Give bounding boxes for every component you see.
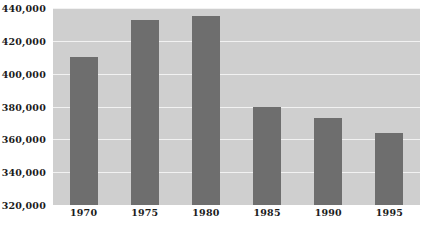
y-axis-tick-label: 360,000 — [2, 134, 46, 145]
x-axis: 197019751980198519901995 — [53, 207, 420, 229]
y-axis-tick-label: 320,000 — [2, 200, 46, 211]
bar — [131, 20, 159, 206]
y-axis-tick-label: 340,000 — [2, 167, 46, 178]
y-axis-tick-label: 420,000 — [2, 35, 46, 46]
x-axis-tick-label: 1975 — [131, 207, 158, 218]
x-axis-tick-label: 1985 — [253, 207, 280, 218]
x-axis-tick-label: 1995 — [376, 207, 403, 218]
x-axis-tick-label: 1970 — [70, 207, 97, 218]
bar — [70, 57, 98, 205]
y-axis: 440,000420,000400,000380,000360,000340,0… — [0, 0, 50, 239]
x-axis-tick-label: 1990 — [315, 207, 342, 218]
x-axis-tick-label: 1980 — [192, 207, 219, 218]
bar-chart: 440,000420,000400,000380,000360,000340,0… — [0, 0, 427, 239]
plot-area — [53, 8, 420, 205]
y-axis-tick-label: 380,000 — [2, 101, 46, 112]
bar — [375, 133, 403, 205]
bar — [192, 16, 220, 205]
bar-series — [53, 8, 420, 205]
bar — [314, 118, 342, 205]
y-axis-tick-label: 400,000 — [2, 68, 46, 79]
y-axis-tick-label: 440,000 — [2, 3, 46, 14]
bar — [253, 107, 281, 206]
